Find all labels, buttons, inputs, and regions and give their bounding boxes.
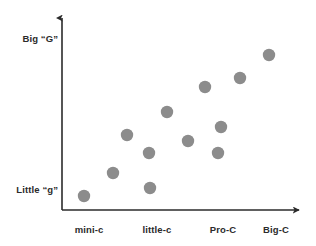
data-point (234, 72, 246, 84)
data-point (182, 135, 194, 147)
data-point (121, 129, 133, 141)
x-tick-label-big-c: Big-C (236, 224, 316, 235)
data-point (263, 49, 275, 61)
data-point (215, 121, 227, 133)
scatter-chart: Big “G” Little “g” mini-clittle-cPro-CBi… (0, 0, 316, 246)
data-point (144, 182, 156, 194)
y-axis-label-low: Little “g” (2, 184, 58, 195)
y-axis-label-high: Big “G” (4, 33, 58, 44)
data-point (212, 147, 224, 159)
data-point (161, 106, 173, 118)
data-point (78, 190, 90, 202)
data-point (107, 167, 119, 179)
data-point (199, 81, 211, 93)
data-points (78, 49, 275, 202)
data-point (143, 147, 155, 159)
axes (62, 18, 299, 210)
